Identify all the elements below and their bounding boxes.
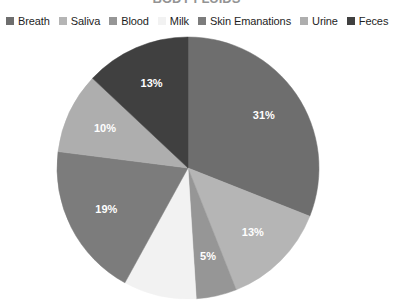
pie-slice-label-saliva: 13%	[242, 226, 264, 238]
pie-slices-group	[57, 37, 319, 299]
pie-slice-label-feces: 13%	[141, 77, 163, 89]
pie-chart-area: 31%13%5%19%10%13%	[0, 0, 393, 300]
pie-chart-svg[interactable]: 31%13%5%19%10%13%	[0, 0, 393, 300]
pie-slice-label-breath: 31%	[253, 109, 275, 121]
pie-slice-label-blood: 5%	[200, 250, 216, 262]
pie-slice-label-urine: 10%	[94, 122, 116, 134]
pie-slice-label-skin-emanations: 19%	[95, 203, 117, 215]
